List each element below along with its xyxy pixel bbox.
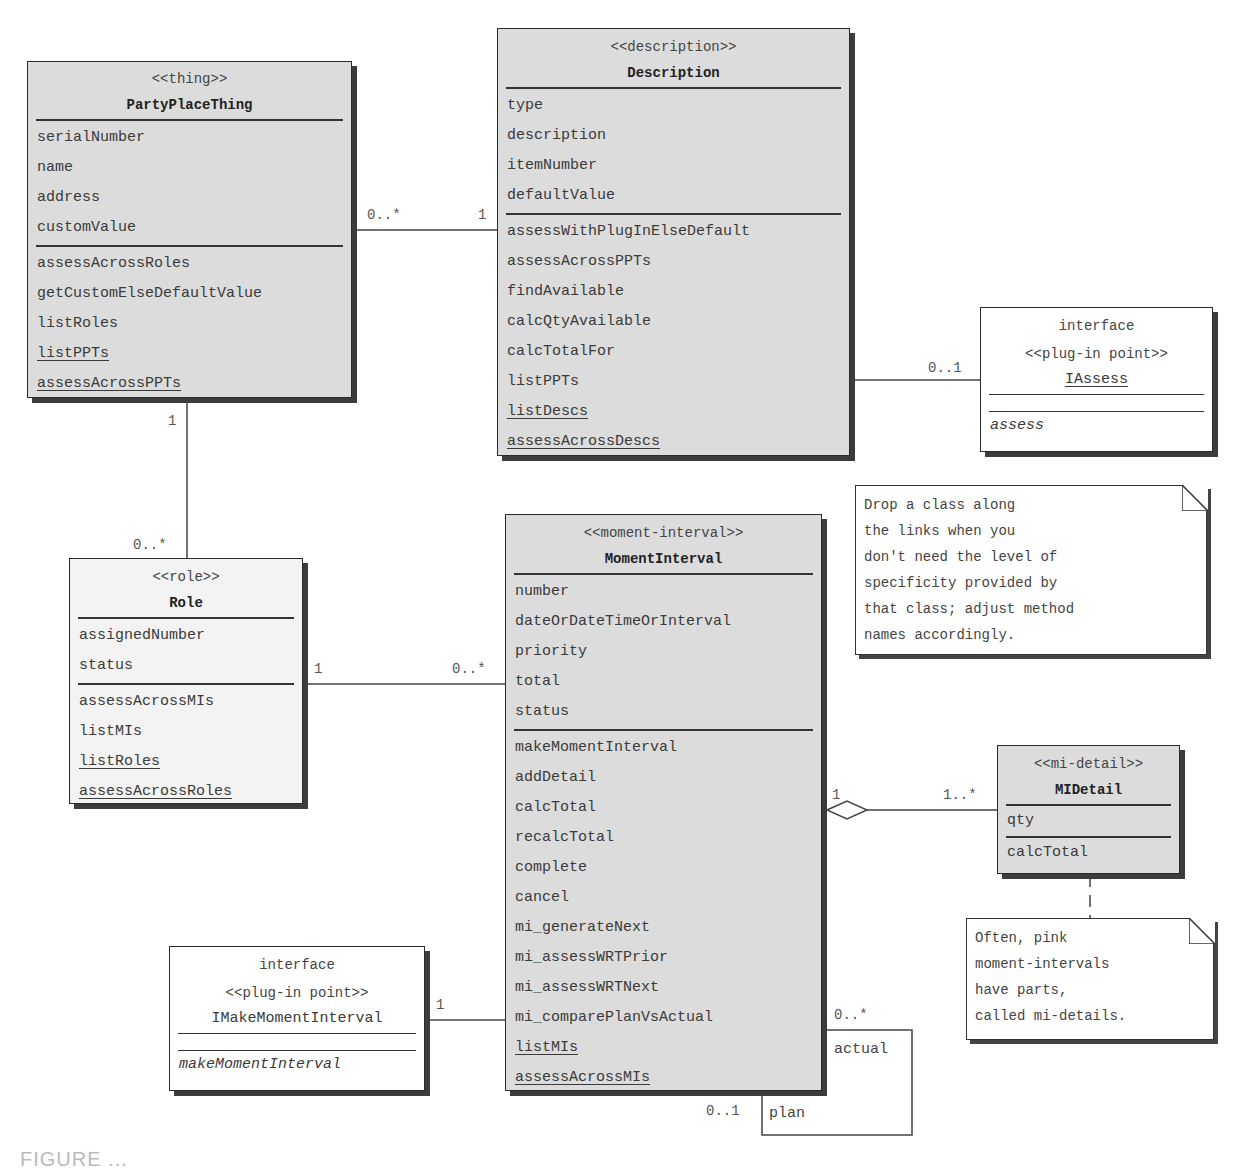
stereotype: <<description>> bbox=[498, 33, 849, 61]
attribute: defaultValue bbox=[498, 181, 849, 211]
note-line: names accordingly. bbox=[864, 622, 1198, 648]
interface-keyword: interface bbox=[170, 951, 424, 979]
method: calcTotalFor bbox=[498, 337, 849, 367]
method: mi_comparePlanVsActual bbox=[506, 1003, 821, 1033]
stereotype: <<mi-detail>> bbox=[998, 750, 1179, 778]
multiplicity-desc-iassess: 0..1 bbox=[928, 360, 962, 376]
method: cancel bbox=[506, 883, 821, 913]
method: assessAcrossPPTs bbox=[498, 247, 849, 277]
method: makeMomentInterval bbox=[170, 1051, 424, 1079]
method: mi_assessWRTPrior bbox=[506, 943, 821, 973]
class-name: Role bbox=[70, 591, 302, 617]
attribute: name bbox=[28, 153, 351, 183]
method: calcQtyAvailable bbox=[498, 307, 849, 337]
attribute: dateOrDateTimeOrInterval bbox=[506, 607, 821, 637]
method: complete bbox=[506, 853, 821, 883]
attribute: type bbox=[498, 91, 849, 121]
multiplicity-mi-self-actual: 0..* bbox=[834, 1007, 868, 1023]
method: addDetail bbox=[506, 763, 821, 793]
static-method: assessAcrossMIs bbox=[506, 1063, 821, 1093]
attribute: itemNumber bbox=[498, 151, 849, 181]
multiplicity-role-mi-mi-end: 0..* bbox=[452, 661, 486, 677]
note-line: specificity provided by bbox=[864, 570, 1198, 596]
static-method: assessAcrossDescs bbox=[498, 427, 849, 457]
attribute: priority bbox=[506, 637, 821, 667]
multiplicity-imake-mi: 1 bbox=[436, 997, 444, 1013]
method: assessWithPlugInElseDefault bbox=[498, 217, 849, 247]
note-pink-mi: Often, pink moment-intervals have parts,… bbox=[966, 918, 1214, 1040]
interface-keyword: interface bbox=[981, 312, 1212, 340]
method: recalcTotal bbox=[506, 823, 821, 853]
note-line: the links when you bbox=[864, 518, 1198, 544]
method: calcTotal bbox=[998, 838, 1179, 868]
method: listMIs bbox=[70, 717, 302, 747]
method: assessAcrossMIs bbox=[70, 687, 302, 717]
static-method: listRoles bbox=[70, 747, 302, 777]
method: calcTotal bbox=[506, 793, 821, 823]
note-line: that class; adjust method bbox=[864, 596, 1198, 622]
note-line: Drop a class along bbox=[864, 492, 1198, 518]
multiplicity-ppt-role-role-end: 0..* bbox=[133, 537, 167, 553]
multiplicity-mi-detail-mi-end: 1 bbox=[832, 787, 840, 803]
multiplicity-mi-self-plan: 0..1 bbox=[706, 1103, 740, 1119]
static-method: listMIs bbox=[506, 1033, 821, 1063]
attribute: number bbox=[506, 577, 821, 607]
note-line: called mi-details. bbox=[975, 1003, 1205, 1029]
attribute: customValue bbox=[28, 213, 351, 243]
attribute: description bbox=[498, 121, 849, 151]
class-party-place-thing[interactable]: <<thing>> PartyPlaceThing serialNumber n… bbox=[27, 61, 352, 398]
multiplicity-ppt-role-ppt-end: 1 bbox=[168, 413, 176, 429]
class-name: MIDetail bbox=[998, 778, 1179, 804]
note-line: have parts, bbox=[975, 977, 1205, 1003]
interface-imake-moment-interval[interactable]: interface <<plug-in point>> IMakeMomentI… bbox=[169, 946, 425, 1091]
attribute: assignedNumber bbox=[70, 621, 302, 651]
static-method: listDescs bbox=[498, 397, 849, 427]
method: listRoles bbox=[28, 309, 351, 339]
class-name: MomentInterval bbox=[506, 547, 821, 573]
multiplicity-ppt-desc-ppt-end: 0..* bbox=[367, 207, 401, 223]
attribute: qty bbox=[998, 806, 1179, 836]
method: listPPTs bbox=[498, 367, 849, 397]
role-label-actual: actual bbox=[834, 1041, 888, 1058]
class-name: Description bbox=[498, 61, 849, 87]
method: mi_generateNext bbox=[506, 913, 821, 943]
stereotype: <<role>> bbox=[70, 563, 302, 591]
interface-name: IMakeMomentInterval bbox=[170, 1007, 424, 1033]
attribute: serialNumber bbox=[28, 123, 351, 153]
aggregation-diamond-icon bbox=[827, 801, 867, 819]
attribute: address bbox=[28, 183, 351, 213]
static-method: assessAcrossRoles bbox=[70, 777, 302, 807]
method: assessAcrossRoles bbox=[28, 249, 351, 279]
stereotype: <<plug-in point>> bbox=[170, 979, 424, 1007]
note-fold-icon bbox=[1189, 918, 1215, 944]
attribute: status bbox=[70, 651, 302, 681]
note-line: moment-intervals bbox=[975, 951, 1205, 977]
class-mi-detail[interactable]: <<mi-detail>> MIDetail qty calcTotal bbox=[997, 745, 1180, 874]
note-line: Often, pink bbox=[975, 925, 1205, 951]
class-description[interactable]: <<description>> Description type descrip… bbox=[497, 28, 850, 456]
method: findAvailable bbox=[498, 277, 849, 307]
method: assess bbox=[981, 412, 1212, 440]
multiplicity-ppt-desc-desc-end: 1 bbox=[478, 207, 486, 223]
interface-name: IAssess bbox=[981, 368, 1212, 394]
attribute: status bbox=[506, 697, 821, 727]
method: getCustomElseDefaultValue bbox=[28, 279, 351, 309]
attribute: total bbox=[506, 667, 821, 697]
stereotype: <<thing>> bbox=[28, 65, 351, 93]
figure-caption: FIGURE ... bbox=[20, 1148, 128, 1170]
static-method: assessAcrossPPTs bbox=[28, 369, 351, 399]
multiplicity-mi-detail-detail-end: 1..* bbox=[943, 787, 977, 803]
stereotype: <<plug-in point>> bbox=[981, 340, 1212, 368]
interface-iassess[interactable]: interface <<plug-in point>> IAssess asse… bbox=[980, 307, 1213, 452]
class-name: PartyPlaceThing bbox=[28, 93, 351, 119]
method: mi_assessWRTNext bbox=[506, 973, 821, 1003]
class-moment-interval[interactable]: <<moment-interval>> MomentInterval numbe… bbox=[505, 514, 822, 1091]
multiplicity-role-mi-role-end: 1 bbox=[314, 661, 322, 677]
class-role[interactable]: <<role>> Role assignedNumber status asse… bbox=[69, 558, 303, 804]
note-drop-class: Drop a class along the links when you do… bbox=[855, 485, 1207, 655]
note-fold-icon bbox=[1182, 485, 1208, 511]
note-line: don't need the level of bbox=[864, 544, 1198, 570]
static-method: listPPTs bbox=[28, 339, 351, 369]
stereotype: <<moment-interval>> bbox=[506, 519, 821, 547]
